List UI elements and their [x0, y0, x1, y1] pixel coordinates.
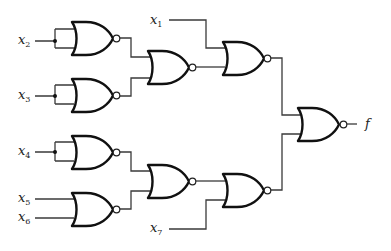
nor-gate-g2	[72, 79, 120, 112]
wire-x1	[169, 20, 225, 48]
inverter-bubble-icon	[189, 178, 196, 185]
nor-gate-g9-output	[298, 108, 347, 141]
input-label-x1: x1	[150, 12, 162, 29]
inverter-bubble-icon	[113, 35, 120, 42]
nor-gate-g1	[72, 22, 120, 55]
inverter-bubble-icon	[113, 92, 120, 99]
inverter-bubble-icon	[113, 206, 120, 213]
inverter-bubble-icon	[264, 187, 271, 194]
input-label-x2: x2	[18, 32, 30, 49]
wire-g2-g3	[120, 78, 150, 96]
logic-circuit-diagram: x1 x2 x3 x4 x5 x6 x7 f	[0, 0, 391, 251]
input-label-x5: x5	[18, 190, 30, 207]
output-label-f: f	[364, 116, 372, 131]
nor-gate-g5	[72, 136, 120, 169]
inverter-bubble-icon	[189, 64, 196, 71]
nor-gate-g8	[223, 174, 271, 207]
junction-dot-x3	[53, 94, 57, 98]
wire-x7	[169, 200, 225, 229]
wire-x2	[35, 29, 74, 48]
wire-g6-g7	[120, 191, 150, 209]
wire-g4-g9	[270, 58, 300, 115]
inverter-bubble-icon	[113, 149, 120, 156]
inverter-bubble-icon	[340, 121, 347, 128]
nor-gate-g7	[148, 165, 196, 198]
wire-g8-g9	[270, 134, 300, 190]
nor-gate-g3	[148, 51, 196, 84]
wire-g1-g3	[120, 38, 150, 57]
input-label-x6: x6	[18, 209, 30, 226]
nor-gate-g4	[223, 42, 271, 75]
nor-gate-g6	[72, 193, 120, 226]
wire-g5-g7	[120, 152, 150, 171]
junction-dot-x2	[53, 39, 57, 43]
input-label-x4: x4	[18, 143, 30, 160]
input-label-x3: x3	[18, 87, 30, 104]
inverter-bubble-icon	[264, 55, 271, 62]
junction-dot-x4	[53, 150, 57, 154]
input-label-x7: x7	[150, 220, 162, 237]
